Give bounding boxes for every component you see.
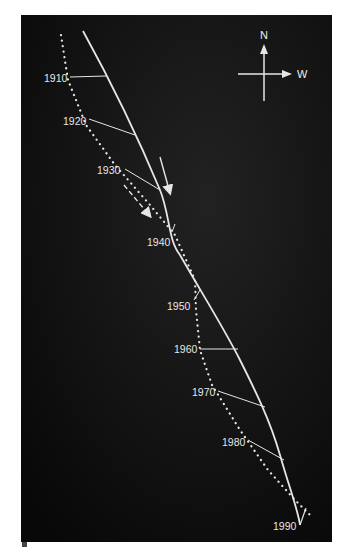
north-label: N — [260, 29, 268, 41]
year-label-1970: 1970 — [192, 386, 216, 398]
migration-diagram: N W 1910 1920 1930 1940 1950 1960 1970 1… — [0, 0, 347, 553]
diagram-panel — [21, 15, 332, 542]
year-label-1920: 1920 — [63, 115, 87, 127]
year-label-1960: 1960 — [174, 343, 198, 355]
panel-label-a — [22, 542, 27, 547]
year-label-1950: 1950 — [167, 300, 191, 312]
year-label-1910: 1910 — [44, 72, 68, 84]
year-label-1980: 1980 — [222, 436, 246, 448]
year-label-1930: 1930 — [97, 164, 121, 176]
west-label: W — [297, 68, 308, 80]
year-label-1990: 1990 — [273, 520, 297, 532]
year-label-1940: 1940 — [147, 236, 171, 248]
